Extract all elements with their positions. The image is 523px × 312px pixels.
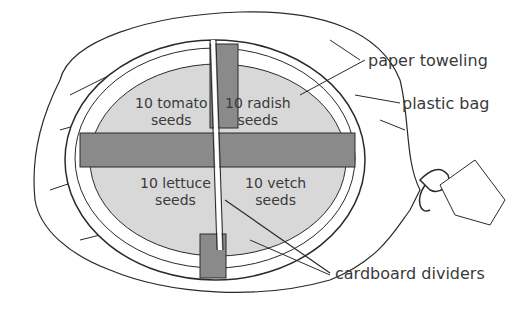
lettuce-count: 10 lettuce [140, 175, 211, 192]
paper-toweling-label: paper toweling [368, 52, 488, 69]
lettuce-seeds-label: 10 lettuce seeds [140, 175, 211, 209]
vertical-divider-bottom [200, 234, 226, 278]
radish-seeds-label: 10 radish seeds [225, 95, 291, 129]
tomato-seeds-label: 10 tomato seeds [135, 95, 208, 129]
vetch-seeds-label: 10 vetch seeds [245, 175, 306, 209]
plastic-bag-label: plastic bag [402, 95, 489, 112]
tomato-unit: seeds [135, 112, 208, 129]
cardboard-dividers-label: cardboard dividers [335, 265, 485, 282]
radish-unit: seeds [225, 112, 291, 129]
tomato-count: 10 tomato [135, 95, 208, 112]
vetch-count: 10 vetch [245, 175, 306, 192]
bag-end [440, 160, 505, 225]
vetch-unit: seeds [245, 192, 306, 209]
lettuce-unit: seeds [140, 192, 211, 209]
radish-count: 10 radish [225, 95, 291, 112]
